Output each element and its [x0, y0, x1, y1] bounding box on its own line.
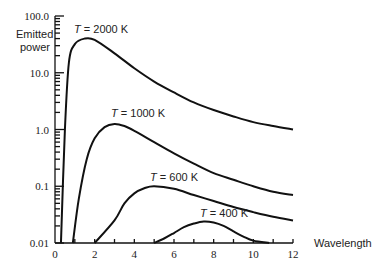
curve-label: T = 1000 K: [111, 107, 166, 119]
curve-2000k: [61, 38, 293, 243]
curves: [61, 38, 293, 243]
x-tick-label: 4: [132, 248, 138, 260]
y-axis-label-line1: Emitted: [16, 28, 53, 40]
y-tick-label: 0.01: [30, 237, 49, 249]
y-tick-label: 0.1: [35, 180, 49, 192]
blackbody-chart: 0.010.11.010.0100.0 024681012 T = 2000 K…: [0, 0, 386, 270]
y-tick-label: 100.0: [24, 10, 49, 22]
x-tick-label: 0: [52, 248, 58, 260]
y-axis-label-line2: power: [20, 41, 50, 53]
x-tick-label: 12: [288, 248, 299, 260]
x-tick-label: 8: [211, 248, 217, 260]
curve-labels: T = 2000 KT = 1000 KT = 600 KT = 400 K: [74, 23, 249, 219]
y-tick-label: 1.0: [35, 124, 49, 136]
curve-label: T = 2000 K: [74, 23, 129, 35]
curve-400k: [154, 221, 269, 243]
curve-600k: [95, 186, 293, 243]
x-tick-label: 2: [92, 248, 98, 260]
x-tick-label: 6: [171, 248, 177, 260]
x-axis-label: Wavelength: [314, 237, 372, 249]
curve-label: T = 400 K: [200, 207, 249, 219]
x-tick-label: 10: [248, 248, 260, 260]
curve-1000k: [73, 124, 293, 243]
curve-label: T = 600 K: [150, 171, 199, 183]
y-tick-label: 10.0: [30, 67, 50, 79]
